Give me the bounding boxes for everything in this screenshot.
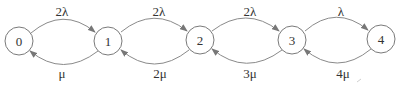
state-label-4: 4: [378, 32, 385, 47]
state-label-2: 2: [197, 33, 204, 48]
edge-1-to-2: [121, 18, 187, 32]
state-node-0: 0: [5, 27, 33, 55]
edge-label-3-2: 3μ: [243, 66, 257, 81]
state-label-3: 3: [289, 33, 296, 48]
edge-label-1-2: 2λ: [153, 4, 167, 19]
edge-label-2-3: 2λ: [244, 4, 258, 19]
edge-label-2-1: 2μ: [153, 66, 167, 81]
edge-1-to-0: [30, 51, 98, 65]
state-node-1: 1: [94, 27, 122, 55]
edge-3-to-4: [305, 17, 368, 31]
edge-4-to-3: [304, 49, 371, 63]
state-label-1: 1: [105, 34, 112, 49]
edge-label-4-3: 4μ: [336, 66, 350, 81]
edge-2-to-1: [121, 50, 189, 64]
edge-3-to-2: [212, 49, 282, 63]
state-diagram: 2λ 2λ 2λ λ μ 2μ 3μ 4μ 0 1 2 3 4: [0, 0, 400, 88]
edge-label-0-1: 2λ: [56, 4, 70, 19]
edge-label-1-0: μ: [59, 66, 66, 81]
state-node-4: 4: [367, 25, 395, 53]
edge-0-to-1: [31, 19, 95, 33]
state-node-3: 3: [278, 26, 306, 54]
edge-label-3-4: λ: [338, 4, 345, 19]
state-node-2: 2: [186, 26, 214, 54]
edge-2-to-3: [212, 18, 279, 31]
state-label-0: 0: [16, 34, 23, 49]
stray-mark: [357, 79, 361, 82]
